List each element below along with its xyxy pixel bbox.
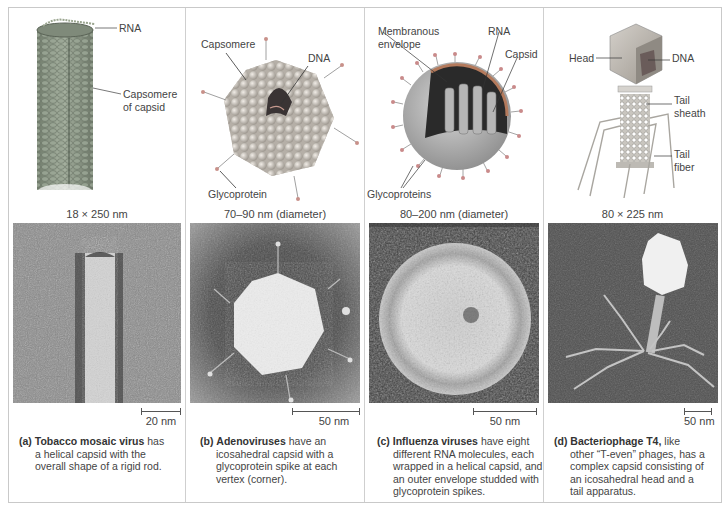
callout-capsid: Capsid bbox=[505, 48, 538, 60]
scale-bar-line bbox=[292, 408, 360, 415]
panel-adenoviruses: Capsomere DNA Glycoprotein 70–90 nm (dia… bbox=[185, 8, 364, 502]
dimensions-label: 70–90 nm (diameter) bbox=[186, 208, 364, 220]
callout-sheath: sheath bbox=[674, 107, 706, 119]
callout-membranous: Membranous bbox=[378, 25, 439, 37]
panel-tobacco-mosaic-virus: RNA Capsomere of capsid 18 × 250 nm 20 n… bbox=[9, 8, 185, 502]
caption-text-3: glycoprotein spike at each bbox=[200, 460, 337, 473]
caption-letter: (b) bbox=[200, 435, 213, 447]
caption-text-1: have an bbox=[289, 435, 326, 447]
scale-bar-label: 20 nm bbox=[141, 415, 181, 427]
tmv-illustration: RNA Capsomere of capsid bbox=[9, 8, 185, 206]
caption-virus-name: Bacteriophage T4, bbox=[570, 435, 661, 447]
tmv-micrograph bbox=[13, 223, 181, 403]
callout-tail: Tail bbox=[674, 94, 690, 106]
adenovirus-illustration: Capsomere DNA Glycoprotein bbox=[186, 8, 364, 206]
caption-text-2: different RNA molecules, each bbox=[377, 448, 542, 461]
influenza-illustration: Membranous envelope RNA Capsid Glycoprot… bbox=[365, 8, 543, 206]
scale-bar: 50 nm bbox=[473, 408, 537, 427]
caption: (d) Bacteriophage T4, like other “T-even… bbox=[554, 435, 705, 498]
callout-rna: RNA bbox=[119, 22, 141, 34]
bacteriophage-illustration: Head DNA Tail sheath Tail fiber bbox=[544, 8, 721, 206]
scale-bar: 50 nm bbox=[292, 408, 360, 427]
scale-bar-line bbox=[141, 408, 181, 415]
caption: (c) Influenza viruses have eight differe… bbox=[377, 435, 542, 498]
scale-bar-label: 50 nm bbox=[292, 415, 360, 427]
caption-text-3: complex capsid consisting of bbox=[554, 460, 705, 473]
scale-bar-line bbox=[473, 408, 537, 415]
callout-glycoproteins: Glycoproteins bbox=[367, 188, 431, 200]
caption-virus-name: Influenza viruses bbox=[393, 435, 478, 447]
caption-text-2: other “T-even” phages, has a bbox=[554, 448, 705, 461]
figure-frame: RNA Capsomere of capsid 18 × 250 nm 20 n… bbox=[8, 7, 722, 503]
dimensions-label: 18 × 250 nm bbox=[9, 208, 185, 220]
caption-text-5: tail apparatus. bbox=[554, 485, 705, 498]
caption-letter: (a) bbox=[19, 435, 32, 447]
influenza-micrograph bbox=[369, 223, 539, 403]
caption-text-2: icosahedral capsid with a bbox=[200, 448, 337, 461]
panel-bacteriophage-t4: Head DNA Tail sheath Tail fiber 80 × 225… bbox=[543, 8, 721, 502]
callout-head: Head bbox=[569, 52, 594, 64]
callout-of-capsid: of capsid bbox=[123, 101, 165, 113]
caption-text-1: has bbox=[147, 435, 164, 447]
caption: (b) Adenoviruses have an icosahedral cap… bbox=[200, 435, 337, 485]
scale-bar: 20 nm bbox=[141, 408, 181, 427]
callout-capsomere: Capsomere bbox=[201, 38, 255, 50]
caption-virus-name: Adenoviruses bbox=[216, 435, 285, 447]
callout-glycoprotein: Glycoprotein bbox=[208, 188, 267, 200]
scale-bar: 50 nm bbox=[684, 408, 712, 427]
callout-dna: DNA bbox=[308, 52, 330, 64]
adenovirus-micrograph bbox=[190, 223, 360, 403]
bacteriophage-micrograph bbox=[548, 223, 718, 403]
scale-bar-label: 50 nm bbox=[473, 415, 537, 427]
caption-text-4: vertex (corner). bbox=[200, 473, 337, 486]
caption-text-3: wrapped in a helical capsid, and bbox=[377, 460, 542, 473]
caption-text-4: an icosahedral head and a bbox=[554, 473, 705, 486]
caption-text-1: have eight bbox=[481, 435, 529, 447]
caption: (a) Tobacco mosaic virus has a helical c… bbox=[19, 435, 164, 473]
caption-letter: (c) bbox=[377, 435, 390, 447]
scale-bar-label: 50 nm bbox=[684, 415, 712, 427]
caption-text-1: like bbox=[664, 435, 680, 447]
caption-text-5: glycoprotein spikes. bbox=[377, 485, 542, 498]
caption-letter: (d) bbox=[554, 435, 567, 447]
dimensions-label: 80 × 225 nm bbox=[544, 208, 721, 220]
caption-text-3: overall shape of a rigid rod. bbox=[19, 460, 164, 473]
callout-capsomere: Capsomere bbox=[123, 88, 177, 100]
caption-text-4: an outer envelope studded with bbox=[377, 473, 542, 486]
callout-tail: Tail bbox=[674, 148, 690, 160]
panel-influenza-viruses: Membranous envelope RNA Capsid Glycoprot… bbox=[364, 8, 543, 502]
callout-envelope: envelope bbox=[378, 38, 421, 50]
dimensions-label: 80–200 nm (diameter) bbox=[365, 208, 543, 220]
caption-text-2: a helical capsid with the bbox=[19, 448, 164, 461]
caption-virus-name: Tobacco mosaic virus bbox=[35, 435, 145, 447]
callout-rna: RNA bbox=[488, 25, 510, 37]
scale-bar-line bbox=[684, 408, 712, 415]
callout-dna: DNA bbox=[672, 52, 694, 64]
callout-fiber: fiber bbox=[674, 161, 694, 173]
